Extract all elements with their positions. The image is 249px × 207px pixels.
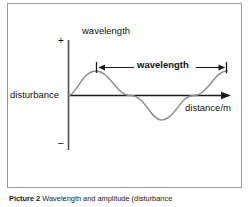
y-axis-positive-marker: + bbox=[58, 36, 64, 46]
wavelength-right-arrowhead-icon bbox=[219, 65, 226, 71]
x-axis-arrowhead-icon bbox=[221, 92, 231, 99]
y-axis-label: disturbance bbox=[10, 90, 59, 100]
x-axis-label: distance/m bbox=[185, 103, 231, 113]
figure-caption-text: Wavelength and amplitude (disturbance bbox=[42, 194, 172, 203]
figure-caption-label: Picture 2 bbox=[9, 194, 40, 203]
wavelength-left-arrowhead-icon bbox=[99, 65, 106, 71]
y-axis-negative-marker: – bbox=[58, 138, 64, 148]
figure-root: wavelength wavelength disturbance distan… bbox=[0, 0, 249, 207]
wavelength-heading-label: wavelength bbox=[82, 26, 130, 36]
figure-caption: Picture 2 Wavelength and amplitude (dist… bbox=[9, 194, 245, 203]
wavelength-span-label: wavelength bbox=[137, 60, 189, 70]
